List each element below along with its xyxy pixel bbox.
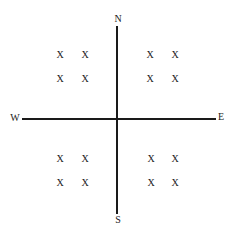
- south-label: S: [115, 215, 121, 225]
- northwest-x-mark: X: [56, 74, 63, 84]
- southeast-x-mark: X: [171, 154, 178, 164]
- north-label: N: [114, 14, 121, 24]
- northeast-x-mark: X: [171, 50, 178, 60]
- southwest-x-mark: X: [56, 154, 63, 164]
- north-south-axis: [116, 26, 118, 214]
- east-label: E: [218, 112, 224, 122]
- southeast-x-mark: X: [171, 178, 178, 188]
- northeast-x-mark: X: [146, 50, 153, 60]
- compass-diagram: N S W E XXXXXXXXXXXXXXXX: [0, 0, 240, 241]
- northwest-x-mark: X: [56, 50, 63, 60]
- west-label: W: [10, 113, 19, 123]
- northeast-x-mark: X: [146, 74, 153, 84]
- northwest-x-mark: X: [81, 74, 88, 84]
- southwest-x-mark: X: [81, 154, 88, 164]
- southwest-x-mark: X: [81, 178, 88, 188]
- northeast-x-mark: X: [171, 74, 178, 84]
- southwest-x-mark: X: [56, 178, 63, 188]
- west-east-axis: [22, 118, 216, 120]
- northwest-x-mark: X: [81, 50, 88, 60]
- southeast-x-mark: X: [147, 154, 154, 164]
- southeast-x-mark: X: [147, 178, 154, 188]
